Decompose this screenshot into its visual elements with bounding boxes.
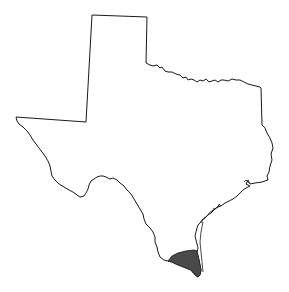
texas-map [0, 0, 289, 292]
texas-outline-svg [0, 0, 289, 292]
texas-outline [16, 15, 273, 277]
barrier-island-line [200, 222, 203, 272]
